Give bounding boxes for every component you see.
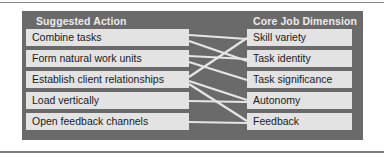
suggested-action-header: Suggested Action: [36, 15, 126, 27]
core-job-dimension-header: Core Job Dimension: [253, 15, 357, 27]
dimension-task-identity: Task identity: [247, 50, 352, 67]
link-combine-skill: [189, 35, 247, 39]
action-load-vertically: Load vertically: [26, 92, 189, 109]
dimension-task-significance: Task significance: [247, 71, 352, 88]
action-combine-tasks: Combine tasks: [26, 29, 189, 46]
link-load-autonomy: [189, 101, 247, 102]
dimension-feedback: Feedback: [247, 113, 352, 130]
action-open-feedback-channels: Open feedback channels: [26, 113, 189, 130]
top-rule: [0, 2, 384, 3]
action-establish-client-relationships: Establish client relationships: [26, 71, 189, 88]
link-open-feedback: [189, 122, 247, 123]
dimension-skill-variety: Skill variety: [247, 29, 352, 46]
dimension-autonomy: Autonomy: [247, 92, 352, 109]
diagram-panel: Suggested Action Core Job Dimension Comb…: [22, 11, 363, 140]
action-form-natural-work-units: Form natural work units: [26, 50, 189, 67]
bottom-rule: [0, 151, 384, 153]
